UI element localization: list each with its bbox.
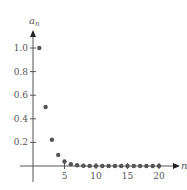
y-tick-label: 0.2 (14, 137, 28, 147)
data-point (132, 164, 136, 168)
data-point (138, 164, 142, 168)
data-point (56, 153, 60, 157)
data-points (37, 46, 161, 168)
ticks: 51015200.20.40.60.81.0 (14, 43, 165, 181)
data-point (100, 164, 104, 168)
data-point (88, 164, 92, 168)
x-tick-label: 10 (90, 171, 102, 181)
y-axis-arrow-icon (30, 30, 36, 37)
y-axis-label-subscript: n (35, 20, 40, 28)
x-axis-arrow-icon (173, 163, 180, 169)
y-tick-label: 1.0 (14, 43, 29, 53)
data-point (62, 159, 66, 163)
data-point (94, 164, 98, 168)
data-point (43, 105, 47, 109)
y-axis-label: an (29, 15, 40, 28)
data-point (113, 164, 117, 168)
x-tick-label: 5 (62, 171, 68, 181)
x-tick-label: 20 (153, 171, 165, 181)
data-point (69, 162, 73, 166)
axis-labels: nan (29, 15, 187, 171)
x-axis-label: n (181, 160, 187, 171)
data-point (151, 164, 155, 168)
y-tick-label: 0.6 (14, 90, 29, 100)
y-tick-label: 0.8 (14, 67, 29, 77)
data-point (125, 164, 129, 168)
x-tick-label: 15 (122, 171, 134, 181)
data-point (81, 164, 85, 168)
sequence-scatter-chart: 51015200.20.40.60.81.0 nan (0, 0, 187, 190)
data-point (50, 138, 54, 142)
data-point (119, 164, 123, 168)
data-point (157, 164, 161, 168)
data-point (106, 164, 110, 168)
y-tick-label: 0.4 (14, 114, 29, 124)
data-point (37, 46, 41, 50)
data-point (75, 163, 79, 167)
data-point (144, 164, 148, 168)
